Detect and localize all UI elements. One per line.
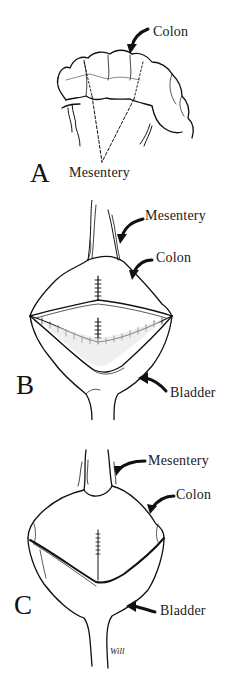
panel-letter: B (16, 370, 34, 401)
label-mesentery: Mesentery (69, 165, 130, 181)
label-mesentery: Mesentery (148, 453, 209, 469)
artist-signature: Will (110, 646, 125, 656)
label-mesentery: Mesentery (145, 208, 206, 224)
panel-b: Mesentery Colon Bladder B (0, 200, 229, 420)
label-colon: Colon (153, 24, 188, 40)
label-bladder: Bladder (170, 385, 216, 401)
label-colon: Colon (176, 487, 211, 503)
label-colon: Colon (156, 250, 191, 266)
label-bladder: Bladder (160, 603, 206, 619)
arrow-icon (132, 29, 148, 46)
panel-letter: C (14, 590, 32, 621)
panel-a: Colon Mesentery A (0, 0, 229, 200)
panel-letter: A (30, 158, 50, 189)
panel-c: Mesentery Colon Bladder C Will (0, 420, 229, 692)
